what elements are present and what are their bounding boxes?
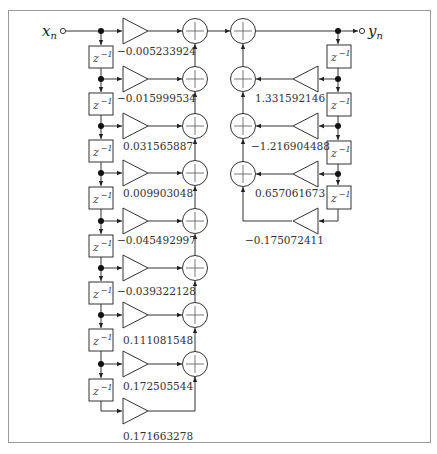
svg-text:−0.039322128: −0.039322128 — [117, 285, 196, 297]
svg-text:0.172505544: 0.172505544 — [123, 380, 193, 392]
svg-text:0.657061673: 0.657061673 — [255, 187, 325, 199]
input-terminal — [60, 28, 65, 33]
gain-triangle — [123, 398, 148, 424]
svg-text:0.111081548: 0.111081548 — [123, 334, 193, 346]
output-terminal — [359, 28, 364, 33]
svg-text:−1.216904488: −1.216904488 — [251, 140, 330, 152]
gain-triangle — [123, 18, 148, 44]
feedforward-coefficient-labels: −0.005233924 −0.015999534 0.031565887 0.… — [117, 45, 196, 442]
gain-triangle — [123, 208, 148, 234]
gain-triangle — [123, 255, 148, 281]
svg-text:−0.005233924: −0.005233924 — [117, 45, 196, 57]
gain-triangle — [123, 160, 148, 186]
svg-text:0.171663278: 0.171663278 — [123, 430, 193, 442]
gain-triangle — [123, 66, 148, 92]
svg-text:−0.175072411: −0.175072411 — [245, 234, 324, 246]
feedforward-delay-chain — [101, 31, 122, 411]
filter-diagram: xn yn z−1 z−1 z−1 z−1 z−1 z−1 z−1 z−1 z−… — [0, 0, 437, 454]
gain-triangle — [123, 113, 148, 139]
gain-triangle — [123, 351, 148, 377]
svg-text:−0.045492997: −0.045492997 — [117, 234, 196, 246]
svg-text:−0.015999534: −0.015999534 — [117, 92, 196, 104]
svg-text:0.009903048: 0.009903048 — [123, 187, 193, 199]
input-label: xn — [42, 22, 57, 41]
output-label: yn — [367, 22, 383, 41]
gain-triangle — [123, 302, 148, 328]
svg-text:0.031565887: 0.031565887 — [123, 140, 193, 152]
svg-text:1.331592146: 1.331592146 — [255, 92, 325, 104]
